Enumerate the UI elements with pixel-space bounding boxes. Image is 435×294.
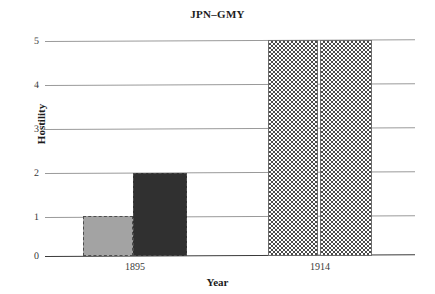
bar-1895-series-1[interactable] [83,216,133,256]
y-tick-label-5: 5 [9,36,39,46]
x-tick-label-1914: 1914 [280,262,360,272]
bar-1895-series-2[interactable] [133,173,187,256]
plot-area: 5 4 3 2 1 0 1895 1914 [45,30,415,262]
x-tick-label-1895: 1895 [95,262,175,272]
y-tick-label-4: 4 [9,80,39,90]
y-tick-label-1: 1 [9,212,39,222]
bar-1914-series-2[interactable] [320,40,372,256]
chart-title: JPN–GMY [0,8,435,20]
bar-chart: JPN–GMY Hostility 5 4 3 2 1 0 1895 [0,0,435,294]
bar-1914-series-1[interactable] [268,40,318,256]
y-tick-label-0: 0 [9,251,39,261]
y-tick-label-2: 2 [9,168,39,178]
y-tick-label-3: 3 [9,124,39,134]
x-axis-label: Year [0,276,435,288]
